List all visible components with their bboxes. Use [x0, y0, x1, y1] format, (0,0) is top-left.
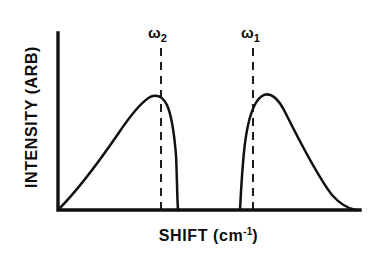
y-axis-title: INTENSITY (ARB) [23, 22, 41, 212]
curve-right-band [240, 94, 356, 210]
omega2-symbol: ω [148, 24, 161, 41]
peak-label-omega1: ω1 [241, 24, 260, 44]
x-axis-title-close: ) [252, 227, 258, 244]
spectrum-plot [0, 0, 381, 261]
omega1-symbol: ω [241, 24, 254, 41]
curve-left-band [58, 96, 178, 210]
x-axis-title-exponent: -1 [243, 226, 252, 237]
figure-root: ω2 ω1 INTENSITY (ARB) SHIFT (cm-1) [0, 0, 381, 261]
x-axis-title: SHIFT (cm-1) [57, 226, 360, 245]
axis-spine [58, 33, 360, 210]
omega2-subscript: 2 [161, 32, 167, 44]
x-axis-title-main: SHIFT (cm [159, 227, 244, 244]
peak-label-omega2: ω2 [148, 24, 167, 44]
omega1-subscript: 1 [254, 32, 260, 44]
